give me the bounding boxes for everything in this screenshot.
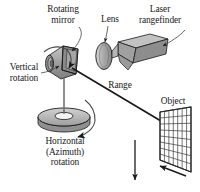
label-rotating-mirror-line2: mirror	[47, 15, 79, 26]
label-horizontal-rotation-line3: rotation	[45, 157, 84, 168]
label-laser-rangefinder-line2: rangefinder	[139, 15, 181, 26]
label-vertical-rotation-line2: rotation	[10, 73, 38, 84]
label-horizontal-rotation: Horizontal (Azimuth) rotation	[45, 136, 84, 168]
label-rotating-mirror-line1: Rotating	[47, 4, 79, 15]
label-range: Range	[108, 80, 131, 90]
laser-rangefinder-body	[112, 34, 168, 70]
label-vertical-rotation: Vertical rotation	[10, 62, 38, 83]
label-horizontal-rotation-line1: Horizontal	[45, 136, 84, 147]
azimuth-turntable	[38, 78, 90, 132]
label-laser-rangefinder-line1: Laser	[139, 4, 181, 15]
label-object: Object	[161, 96, 185, 106]
label-laser-rangefinder: Laser rangefinder	[139, 4, 181, 25]
label-rotating-mirror: Rotating mirror	[47, 4, 79, 25]
label-vertical-rotation-line1: Vertical	[10, 62, 38, 73]
laser-rangefinder-diagram: Rotating mirror Lens Laser rangefinder V…	[0, 0, 200, 192]
label-horizontal-rotation-line2: (Azimuth)	[45, 147, 84, 158]
rotating-mirror-drum	[46, 46, 79, 79]
label-lens: Lens	[101, 14, 119, 24]
lens	[96, 43, 112, 70]
object-grid	[160, 107, 191, 172]
